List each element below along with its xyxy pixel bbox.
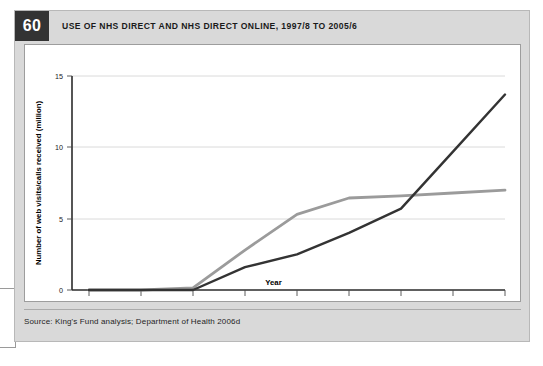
figure-title: USE OF NHS DIRECT AND NHS DIRECT ONLINE,…: [62, 21, 357, 31]
gridlines: [72, 76, 505, 219]
line-chart: 15 10 5 0 Number of web visits/calls rec…: [25, 45, 520, 301]
x-tick-label-3: 2000/1: [234, 299, 256, 301]
series-line-nhs-direct-calls: [89, 190, 505, 290]
figure-container: 60 USE OF NHS DIRECT AND NHS DIRECT ONLI…: [14, 10, 530, 342]
x-tick-label-6: 2003/4: [390, 299, 412, 301]
x-tick-label-7: 2004/5: [442, 299, 464, 301]
figure-header: 60 USE OF NHS DIRECT AND NHS DIRECT ONLI…: [15, 11, 529, 41]
y-tick-label-5: 5: [59, 215, 63, 224]
x-tick-label-5: 2002/3: [338, 299, 360, 301]
chart-plot-panel: 15 10 5 0 Number of web visits/calls rec…: [24, 44, 521, 302]
figure-number-badge: 60: [15, 11, 49, 41]
x-tick-label-8: 2005/6: [494, 299, 516, 301]
y-tick-label-0: 0: [59, 286, 63, 295]
source-bar: Source: King's Fund analysis; Department…: [24, 309, 521, 332]
x-tick-label-1: 1998/9: [130, 299, 152, 301]
x-tick-label-0: 1997/8: [78, 299, 100, 301]
y-axis-title: Number of web visits/calls received (mil…: [34, 100, 43, 265]
source-text: Source: King's Fund analysis; Department…: [24, 317, 240, 326]
x-tick-label-2: 1999/2000: [176, 299, 210, 301]
x-axis-title: Year: [25, 278, 522, 287]
y-tick-label-10: 10: [55, 143, 63, 152]
x-tick-label-4: 2001/2: [286, 299, 308, 301]
y-tick-label-15: 15: [55, 72, 63, 81]
